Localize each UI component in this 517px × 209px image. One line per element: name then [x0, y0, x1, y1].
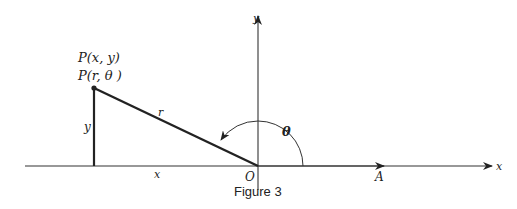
x-axis-label: x: [496, 160, 503, 173]
y-axis-label: y: [252, 12, 260, 25]
point-p: [91, 85, 96, 90]
figure-caption: Figure 3: [234, 184, 282, 199]
polar-axis-label: A: [374, 170, 384, 184]
horizontal-leg-label: x: [154, 168, 161, 181]
radius-label: r: [158, 106, 164, 119]
polar-coordinates-diagram: P(x, y) P(r, θ ) y x O A r θ y x Figure …: [0, 0, 517, 209]
angle-label: θ: [282, 124, 291, 139]
radius-line: [94, 88, 258, 166]
origin-label: O: [245, 170, 255, 184]
vertical-leg-label: y: [83, 120, 91, 134]
point-label-cartesian: P(x, y): [77, 50, 120, 65]
angle-arc: [221, 121, 303, 166]
point-label-polar: P(r, θ ): [77, 68, 122, 83]
